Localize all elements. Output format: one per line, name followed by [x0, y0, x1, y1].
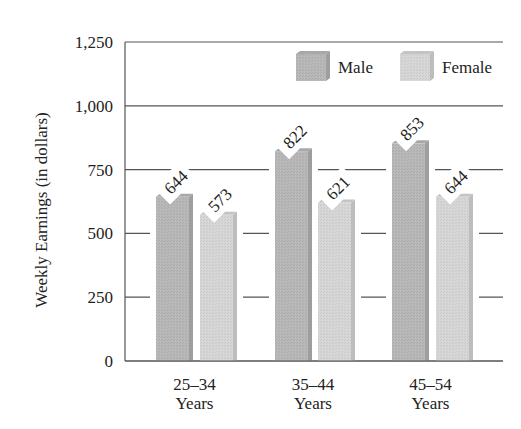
- x-tick-label: Years: [412, 394, 450, 413]
- legend-swatch-female: [400, 54, 430, 81]
- bar-male-3: 853: [386, 107, 435, 361]
- y-tick-label: 250: [88, 288, 114, 307]
- x-tick-label: Years: [176, 394, 214, 413]
- y-tick-label: 1,250: [75, 33, 113, 52]
- bar-chart: Weekly Earnings (in dollars) 02505007501…: [0, 0, 521, 429]
- bar-male-2: 822: [269, 115, 318, 361]
- bar-female-1: 573: [194, 179, 243, 361]
- y-axis-title: Weekly Earnings (in dollars): [32, 112, 52, 308]
- legend: MaleFemale: [292, 47, 492, 87]
- bar-female-3: 644: [430, 161, 479, 361]
- y-tick-label: 0: [105, 352, 114, 371]
- x-tick-label: Years: [294, 394, 332, 413]
- legend-label-female: Female: [442, 58, 492, 77]
- legend-label-male: Male: [338, 58, 373, 77]
- bar-female-2: 621: [312, 167, 361, 361]
- y-tick-label: 1,000: [75, 97, 113, 116]
- x-tick-label: 45–54: [409, 375, 452, 394]
- bar-male-1: 644: [150, 161, 199, 361]
- x-tick-label: 35–44: [292, 375, 335, 394]
- y-tick-label: 500: [88, 224, 114, 243]
- chart-canvas: 02505007501,0001,25064457325–34Years8226…: [0, 0, 521, 429]
- x-tick-label: 25–34: [173, 375, 216, 394]
- y-tick-label: 750: [88, 161, 114, 180]
- legend-swatch-male: [296, 54, 326, 81]
